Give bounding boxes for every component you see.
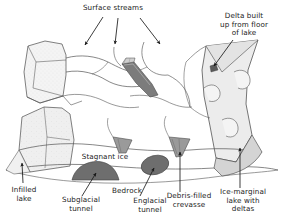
pointer-surface-streams-right <box>140 18 160 44</box>
mid-crevasse-wedge <box>113 137 132 153</box>
label-ice-marginal-lake: Ice-marginal lake with deltas <box>212 188 274 214</box>
pointer-surface-streams-left <box>85 17 103 45</box>
central-ice-mass-group <box>114 42 192 107</box>
crevasse-feeder-left <box>107 118 113 137</box>
englacial-tunnel-oval <box>139 152 171 177</box>
central-stream-incision-a <box>114 47 121 66</box>
debris-stream-band <box>122 62 158 97</box>
central-ice-edge-lower <box>130 95 192 107</box>
label-delta-built: Delta built up from floor of lake <box>208 12 280 38</box>
label-surface-streams: Surface streams <box>72 4 154 13</box>
glacial-landform-diagram: Surface streams Delta built up from floo… <box>0 0 284 220</box>
label-stagnant-ice: Stagnant ice <box>72 153 138 162</box>
label-infilled-lake: Infilled lake <box>2 186 46 203</box>
crevasse-feeder-right <box>164 116 169 137</box>
pointer-surface-streams-mid <box>115 18 118 44</box>
right-ice-upper-edge <box>186 46 206 62</box>
label-subglacial-tunnel: Subglacial tunnel <box>52 196 110 213</box>
stream-channel-left-3 <box>63 94 139 107</box>
label-debris-filled-crevasse: Debris-filled crevasse <box>158 192 220 209</box>
label-bedrock: Bedrock <box>104 187 150 196</box>
central-ice-edge-right <box>168 75 190 107</box>
central-stream-incision-b <box>142 42 168 75</box>
stream-channel-mid-fork <box>92 62 108 74</box>
